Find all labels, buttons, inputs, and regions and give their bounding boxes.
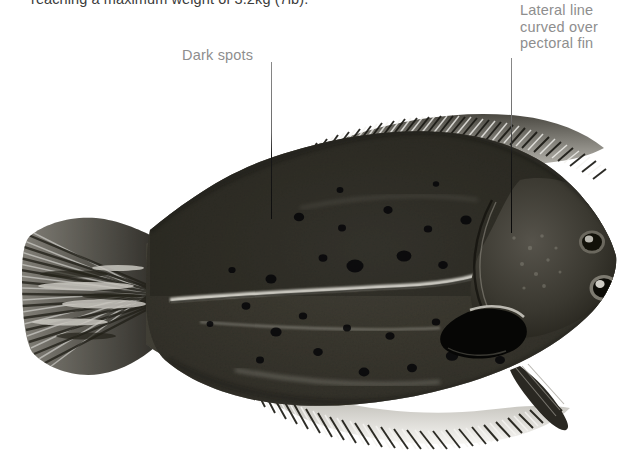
caption-text: reaching a maximum weight of 3.2kg (7lb)…	[31, 0, 308, 7]
fish-body	[140, 120, 630, 420]
lateral-line-leader-line	[511, 58, 512, 233]
lateral-line-label: Lateral linecurved overpectoral fin	[520, 2, 598, 52]
lateral-line-label-line-1: Lateral line	[520, 2, 593, 18]
screenshot-canvas: reaching a maximum weight of 3.2kg (7lb)…	[0, 0, 637, 457]
dark-spots-label: Dark spots	[182, 47, 253, 64]
lateral-line-label-line-2: curved over	[520, 19, 598, 35]
dark-spots-leader-line	[271, 62, 272, 219]
lateral-line-label-line-3: pectoral fin	[520, 35, 593, 51]
upper-eye	[579, 231, 605, 254]
flounder-illustration	[0, 60, 637, 457]
lower-eye	[590, 275, 619, 301]
